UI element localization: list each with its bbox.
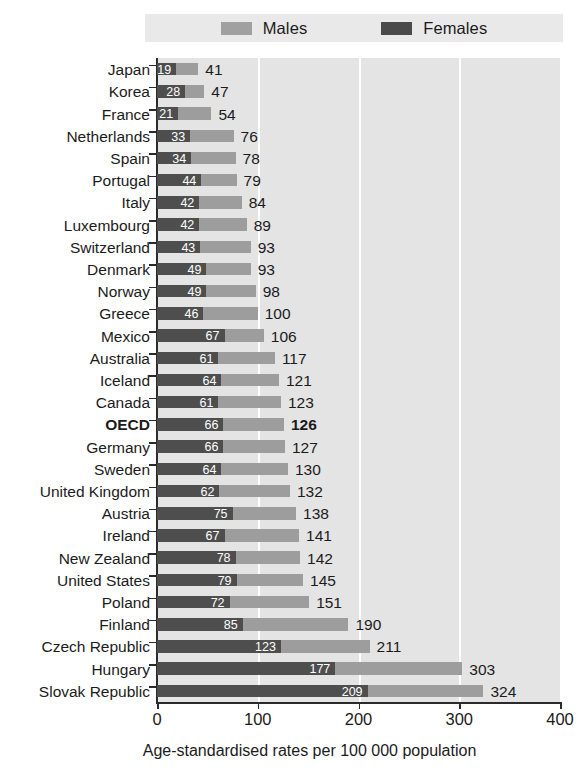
y-axis-tick [149, 153, 157, 155]
x-axis-tick-label: 100 [244, 710, 272, 729]
chart-row[interactable]: Mexico67106 [0, 324, 579, 346]
chart-row[interactable]: United States79145 [0, 569, 579, 591]
chart-row[interactable]: Finland85190 [0, 613, 579, 635]
x-axis-title: Age-standardised rates per 100 000 popul… [0, 742, 579, 760]
x-axis-tick [258, 702, 260, 709]
chart-row[interactable]: Japan1941 [0, 58, 579, 80]
value-label-males: 100 [265, 306, 291, 322]
category-label: OECD [0, 417, 150, 433]
chart-row[interactable]: Spain3478 [0, 147, 579, 169]
y-axis-tick [149, 109, 157, 111]
value-label-females: 44 [157, 175, 196, 188]
chart-row[interactable]: Denmark4993 [0, 258, 579, 280]
category-label: Canada [0, 395, 150, 411]
value-label-males: 79 [244, 173, 261, 189]
value-label-females: 34 [157, 153, 186, 166]
value-label-females: 61 [157, 397, 213, 410]
category-label: Iceland [0, 373, 150, 389]
category-label: Germany [0, 440, 150, 456]
y-axis-tick [149, 620, 157, 622]
category-label: Portugal [0, 173, 150, 189]
chart-row[interactable]: Greece46100 [0, 302, 579, 324]
chart-row[interactable]: Hungary177303 [0, 658, 579, 680]
chart-row[interactable]: Netherlands3376 [0, 125, 579, 147]
x-axis-tick-label: 200 [345, 710, 373, 729]
y-axis-tick [149, 309, 157, 311]
value-label-males: 54 [218, 107, 235, 123]
x-axis-tick [359, 702, 361, 709]
y-axis-tick [149, 264, 157, 266]
chart-row[interactable]: Slovak Republic209324 [0, 680, 579, 702]
value-label-females: 66 [157, 441, 218, 454]
legend-swatch-females-icon [381, 22, 412, 35]
value-label-females: 67 [157, 330, 220, 343]
chart-row[interactable]: Norway4998 [0, 280, 579, 302]
chart-row[interactable]: Korea2847 [0, 80, 579, 102]
bar-chart: Males Females 0100200300400Japan1941Kore… [0, 0, 579, 784]
value-label-females: 49 [157, 286, 201, 299]
chart-row[interactable]: Australia61117 [0, 347, 579, 369]
legend-label-females: Females [423, 20, 487, 37]
y-axis-tick [149, 131, 157, 133]
chart-row[interactable]: Iceland64121 [0, 369, 579, 391]
chart-row[interactable]: Austria75138 [0, 502, 579, 524]
x-axis-tick-label: 0 [152, 710, 161, 729]
legend-entry-females[interactable]: Females [381, 20, 487, 37]
y-axis-tick [149, 220, 157, 222]
category-label: Czech Republic [0, 639, 150, 655]
value-label-males: 93 [258, 262, 275, 278]
y-axis-tick [149, 686, 157, 688]
value-label-males: 126 [291, 417, 317, 433]
category-label: Poland [0, 595, 150, 611]
legend-entry-males[interactable]: Males [221, 20, 308, 37]
value-label-females: 62 [157, 486, 214, 499]
category-label: Italy [0, 195, 150, 211]
value-label-females: 123 [157, 641, 276, 654]
chart-row[interactable]: United Kingdom62132 [0, 480, 579, 502]
category-label: Slovak Republic [0, 684, 150, 700]
value-label-females: 64 [157, 464, 216, 477]
chart-row[interactable]: Italy4284 [0, 191, 579, 213]
value-label-males: 93 [258, 240, 275, 256]
chart-row[interactable]: OECD66126 [0, 413, 579, 435]
value-label-males: 324 [490, 684, 516, 700]
y-axis-tick [149, 553, 157, 555]
value-label-females: 78 [157, 552, 231, 565]
value-label-males: 89 [254, 218, 271, 234]
value-label-males: 130 [295, 462, 321, 478]
value-label-females: 49 [157, 264, 201, 277]
chart-row[interactable]: Czech Republic123211 [0, 635, 579, 657]
y-axis-tick [149, 65, 157, 67]
value-label-males: 132 [297, 484, 323, 500]
category-label: Greece [0, 306, 150, 322]
value-label-males: 123 [288, 395, 314, 411]
value-label-males: 84 [249, 195, 266, 211]
chart-row[interactable]: Portugal4479 [0, 169, 579, 191]
category-label: Hungary [0, 662, 150, 678]
chart-row[interactable]: France2154 [0, 102, 579, 124]
chart-row[interactable]: Germany66127 [0, 436, 579, 458]
category-label: United States [0, 573, 150, 589]
value-label-females: 46 [157, 308, 198, 321]
value-label-males: 138 [303, 506, 329, 522]
value-label-males: 121 [286, 373, 312, 389]
value-label-males: 303 [469, 662, 495, 678]
value-label-females: 43 [157, 242, 195, 255]
value-label-females: 21 [157, 108, 173, 121]
category-label: Ireland [0, 528, 150, 544]
y-axis-tick [149, 642, 157, 644]
category-label: Australia [0, 351, 150, 367]
category-label: Switzerland [0, 240, 150, 256]
chart-row[interactable]: Luxembourg4289 [0, 213, 579, 235]
chart-row[interactable]: Canada61123 [0, 391, 579, 413]
chart-row[interactable]: New Zealand78142 [0, 547, 579, 569]
chart-row[interactable]: Switzerland4393 [0, 236, 579, 258]
chart-row[interactable]: Poland72151 [0, 591, 579, 613]
chart-legend: Males Females [145, 14, 563, 42]
category-label: Mexico [0, 329, 150, 345]
chart-row[interactable]: Sweden64130 [0, 458, 579, 480]
category-label: Korea [0, 84, 150, 100]
value-label-males: 141 [306, 528, 332, 544]
value-label-males: 145 [310, 573, 336, 589]
chart-row[interactable]: Ireland67141 [0, 524, 579, 546]
